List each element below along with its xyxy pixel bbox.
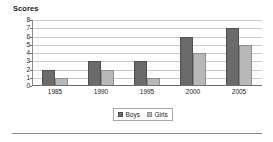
x-axis-tick-label: 1995 <box>127 88 167 96</box>
y-axis-line <box>32 20 33 86</box>
x-axis-line <box>32 85 262 86</box>
gridline <box>32 20 262 21</box>
bar-boys-1995 <box>134 61 147 86</box>
bar-girls-1990 <box>101 70 114 87</box>
y-axis-tick-labels: 876543210 <box>14 20 30 86</box>
legend-label: Boys <box>126 111 140 118</box>
bar-boys-2000 <box>180 37 193 87</box>
y-axis-tick-label: 0 <box>16 83 30 89</box>
legend-label: Girls <box>154 111 167 118</box>
chart-page: Scores 876543210 19851990199520002005 Bo… <box>0 0 273 142</box>
legend-item-boys: Boys <box>118 111 140 118</box>
bar-girls-2000 <box>193 53 206 86</box>
y-axis-tick-label: 3 <box>16 58 30 64</box>
y-axis-tick-label: 7 <box>16 25 30 31</box>
x-axis-tick-label: 1985 <box>35 88 75 96</box>
x-axis-tick-label: 2000 <box>173 88 213 96</box>
y-axis-tick-label: 4 <box>16 50 30 56</box>
legend-swatch-icon <box>118 112 123 117</box>
legend-swatch-icon <box>147 112 152 117</box>
x-axis-tick-label: 1990 <box>81 88 121 96</box>
bar-girls-2005 <box>239 45 252 86</box>
x-axis-tick-label: 2005 <box>219 88 259 96</box>
y-axis-tick-label: 6 <box>16 34 30 40</box>
bottom-divider <box>12 133 262 134</box>
y-axis-tick-label: 8 <box>16 17 30 23</box>
bar-boys-2005 <box>226 28 239 86</box>
y-axis-tick-label: 5 <box>16 42 30 48</box>
x-axis-tick-labels: 19851990199520002005 <box>32 88 262 100</box>
bar-boys-1990 <box>88 61 101 86</box>
bar-boys-1985 <box>42 70 55 87</box>
page-title: Scores <box>13 4 39 13</box>
plot-area <box>32 20 262 86</box>
legend-item-girls: Girls <box>147 111 168 118</box>
y-axis-tick-label: 1 <box>16 75 30 81</box>
chart-legend: BoysGirls <box>113 108 173 121</box>
y-axis-tick-mark <box>30 86 32 87</box>
y-axis-tick-label: 2 <box>16 67 30 73</box>
